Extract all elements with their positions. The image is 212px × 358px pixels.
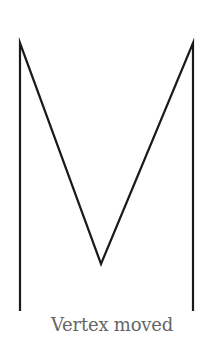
m-shape-diagram: [0, 0, 212, 358]
diagram-caption: Vertex moved: [0, 314, 212, 335]
m-shape-polyline: [20, 43, 193, 311]
